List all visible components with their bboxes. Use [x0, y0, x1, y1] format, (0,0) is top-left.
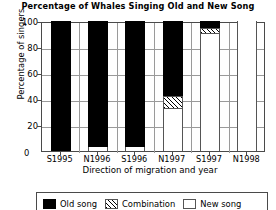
bar-segment-old-song [88, 21, 108, 147]
plot-area [41, 22, 265, 152]
y-tick-label: 80 [0, 44, 38, 52]
bar-segment-new-song [237, 21, 257, 151]
bar-segment-old-song [51, 21, 71, 151]
y-axis-zero-label: 0 [24, 148, 29, 158]
bar-segment-combination [200, 28, 220, 35]
x-tick-mark [209, 152, 210, 155]
bar [163, 21, 183, 151]
bar [51, 21, 71, 151]
category-separator [191, 23, 192, 153]
bar [200, 21, 220, 151]
y-tick-label: 100 [0, 18, 38, 26]
y-tick-label: 20 [0, 122, 38, 130]
chart-title: Percentage of Whales Singing Old and New… [0, 1, 276, 11]
bar [237, 21, 257, 151]
x-tick-mark [172, 152, 173, 155]
category-separator [117, 23, 118, 153]
bar [125, 21, 145, 151]
category-separator [79, 23, 80, 153]
x-tick-mark [246, 152, 247, 155]
x-tick-mark [97, 152, 98, 155]
legend-label-new-song: New song [200, 199, 241, 209]
bar-segment-new-song [200, 34, 220, 151]
category-separator [229, 23, 230, 153]
y-tick-label: 40 [0, 96, 38, 104]
hatched-swatch-icon [105, 199, 118, 209]
bar-segment-old-song [125, 21, 145, 147]
bar-segment-new-song [125, 147, 145, 151]
legend-label-combination: Combination [122, 199, 175, 209]
whale-song-bar-chart: Percentage of Whales Singing Old and New… [0, 0, 276, 210]
bar-segment-old-song [163, 21, 183, 96]
gridline [42, 75, 264, 76]
y-tick-label: 60 [0, 70, 38, 78]
solid-black-swatch-icon [43, 199, 56, 209]
x-tick-mark [134, 152, 135, 155]
bar-segment-old-song [200, 21, 220, 28]
bar-segment-combination [163, 96, 183, 109]
legend-item-new-song: New song [183, 199, 241, 209]
gridline [42, 49, 264, 50]
x-tick-label: N1998 [223, 154, 269, 164]
x-tick-mark [60, 152, 61, 155]
category-separator [154, 23, 155, 153]
legend-item-old-song: Old song [43, 199, 97, 209]
bar-segment-new-song [88, 147, 108, 151]
white-swatch-icon [183, 199, 196, 209]
legend-item-combination: Combination [105, 199, 175, 209]
x-axis-title: Direction of migration and year [30, 165, 270, 175]
chart-legend: Old song Combination New song [36, 192, 268, 210]
gridline [42, 127, 264, 128]
bar-segment-new-song [163, 109, 183, 151]
legend-label-old-song: Old song [60, 199, 97, 209]
gridline [42, 101, 264, 102]
bar [88, 21, 108, 151]
